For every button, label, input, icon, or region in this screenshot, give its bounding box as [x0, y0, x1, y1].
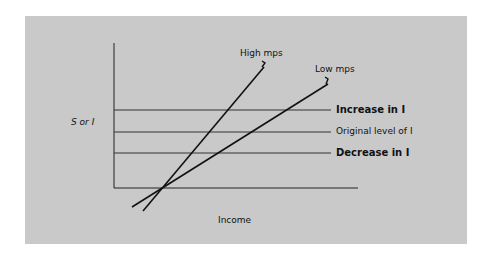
- low-mps-line: [132, 84, 328, 207]
- original-level-label: Original level of I: [336, 126, 413, 136]
- decrease-label: Decrease in I: [336, 147, 409, 158]
- diagram-svg: [0, 0, 488, 266]
- y-axis-label: S or I: [71, 117, 94, 127]
- low-mps-label: Low mps: [315, 64, 355, 74]
- increase-label: Increase in I: [336, 104, 405, 115]
- low-mps-pointer-icon: [325, 77, 328, 84]
- high-mps-label: High mps: [240, 48, 283, 58]
- high-mps-pointer-icon: [262, 61, 265, 67]
- x-axis-label: Income: [218, 215, 251, 225]
